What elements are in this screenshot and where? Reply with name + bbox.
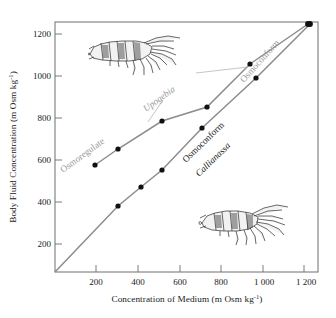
data-point — [138, 184, 143, 189]
data-point — [159, 167, 164, 172]
x-tick-label: 1 200 — [296, 277, 317, 287]
y-tick-label: 800 — [38, 113, 52, 123]
x-tick-label: 1 000 — [254, 277, 275, 287]
data-point — [159, 118, 164, 123]
x-tick-label: 200 — [89, 277, 103, 287]
x-tick-labels: 200 400 600 800 1 000 1 200 — [89, 277, 316, 287]
y-axis-title-main: Body Fluid Concentration (m Osm kg — [8, 80, 18, 223]
y-axis-title: Body Fluid Concentration (m Osm kg-1) — [7, 71, 18, 223]
data-point — [253, 75, 258, 80]
x-tick-label: 400 — [131, 277, 145, 287]
data-point — [115, 203, 120, 208]
data-point — [199, 125, 204, 130]
y-axis-title-tail: ) — [8, 71, 18, 74]
y-tick-label: 1000 — [33, 71, 52, 81]
data-point — [115, 146, 120, 151]
osmoregulation-chart: 1200 1000 800 600 400 200 200 400 600 80… — [0, 0, 336, 318]
x-tick-label: 800 — [214, 277, 228, 287]
x-tick-label: 600 — [173, 277, 187, 287]
y-tick-label: 400 — [38, 197, 52, 207]
y-tick-label: 1200 — [33, 29, 52, 39]
data-point — [305, 21, 311, 27]
data-point — [92, 162, 97, 167]
x-axis-title-tail: ) — [259, 294, 262, 304]
data-point — [204, 104, 209, 109]
x-axis-title-main: Concentration of Medium (m Osm kg — [111, 294, 254, 304]
y-tick-label: 200 — [38, 239, 52, 249]
y-tick-labels: 1200 1000 800 600 400 200 — [33, 29, 52, 249]
x-axis-title: Concentration of Medium (m Osm kg-1) — [111, 293, 262, 304]
y-tick-label: 600 — [38, 155, 52, 165]
